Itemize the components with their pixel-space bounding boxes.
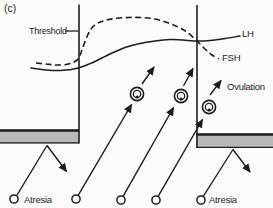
primordial-follicle	[152, 196, 160, 204]
atresia-path-right	[203, 150, 233, 197]
primordial-follicle	[197, 196, 205, 204]
panel-label: (c)	[4, 2, 16, 14]
atresia-deflect-arrow-left	[47, 146, 67, 172]
primordial-follicle	[117, 196, 125, 204]
atresia-deflect-arrow-right	[233, 150, 250, 173]
growth-arrow-3	[158, 120, 202, 197]
follicle-outer-ring	[202, 100, 215, 113]
follicle-threshold-diagram: (c) Threshold LH FSH Ovulation Atresia A…	[0, 0, 273, 208]
threshold-label: Threshold	[29, 26, 67, 36]
lh-curve-label: LH	[242, 29, 254, 40]
follicle-oocyte-dot	[136, 96, 139, 99]
ovulation-label: Ovulation	[227, 82, 265, 93]
lh-curve	[31, 36, 240, 71]
primordial-follicle	[10, 195, 18, 203]
follicle-oocyte-dot	[180, 98, 183, 101]
follicle-outer-ring	[130, 87, 143, 100]
ovulation-arrow	[210, 81, 221, 96]
growth-arrow-1	[78, 105, 131, 196]
atresia-path-left	[17, 146, 47, 196]
fsh-curve-label: FSH	[222, 53, 240, 64]
follicle-outer-ring	[174, 89, 187, 102]
atresia-label-left: Atresia	[24, 195, 52, 206]
primordial-follicle	[72, 195, 80, 203]
continue-growth-arrow-1	[142, 67, 154, 84]
follicle-oocyte-dot	[208, 109, 211, 112]
atresia-label-right: Atresia	[209, 195, 237, 206]
continue-growth-arrow-2	[184, 69, 194, 87]
